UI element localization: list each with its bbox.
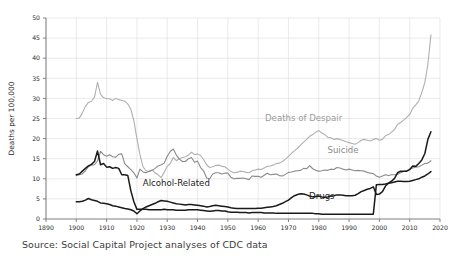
y-tick-label: 0 bbox=[36, 215, 40, 222]
chart-figure: 0510152025303540455018901900191019201930… bbox=[0, 0, 452, 266]
y-tick-label: 40 bbox=[32, 54, 40, 61]
series-label-suicide: Suicide bbox=[327, 145, 358, 155]
x-tick-label: 2000 bbox=[372, 224, 388, 231]
y-tick-label: 5 bbox=[36, 195, 40, 202]
series-label-deaths-of-despair: Deaths of Despair bbox=[265, 113, 343, 123]
y-tick-label: 25 bbox=[32, 115, 40, 122]
series-label-alcohol-related: Alcohol-Related bbox=[143, 178, 210, 188]
x-tick-label: 1950 bbox=[220, 224, 236, 231]
x-tick-label: 1930 bbox=[159, 224, 175, 231]
x-tick-label: 1920 bbox=[129, 224, 145, 231]
y-axis-title-text: Deaths per 100,000 bbox=[7, 81, 16, 155]
y-tick-label: 15 bbox=[32, 155, 40, 162]
x-tick-label: 2020 bbox=[432, 224, 448, 231]
x-tick-label: 1900 bbox=[68, 224, 84, 231]
y-tick-label: 35 bbox=[32, 75, 40, 82]
y-tick-label: 10 bbox=[32, 175, 40, 182]
x-tick-label: 1940 bbox=[190, 224, 206, 231]
x-tick-label: 1980 bbox=[311, 224, 327, 231]
y-tick-label: 30 bbox=[32, 95, 40, 102]
y-tick-label: 45 bbox=[32, 34, 40, 41]
x-tick-label: 1990 bbox=[341, 224, 357, 231]
x-tick-label: 1960 bbox=[250, 224, 266, 231]
x-tick-label: 1890 bbox=[38, 224, 54, 231]
source-note: Source: Social Capital Project analyses … bbox=[22, 239, 268, 250]
deaths-of-despair-line-chart: 0510152025303540455018901900191019201930… bbox=[0, 0, 452, 266]
x-tick-label: 1910 bbox=[99, 224, 115, 231]
x-tick-label: 1970 bbox=[281, 224, 297, 231]
y-axis-title: Deaths per 100,000 bbox=[7, 81, 16, 155]
series-label-drugs: Drugs bbox=[309, 191, 335, 201]
x-tick-label: 2010 bbox=[402, 224, 418, 231]
y-tick-label: 50 bbox=[32, 14, 40, 21]
y-tick-label: 20 bbox=[32, 135, 40, 142]
